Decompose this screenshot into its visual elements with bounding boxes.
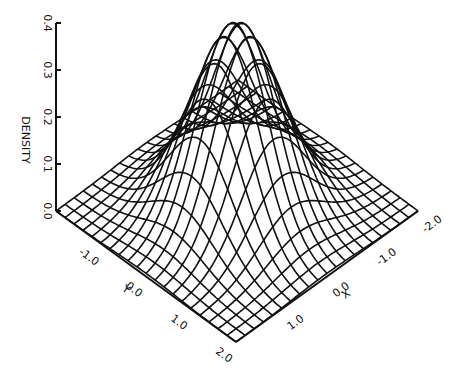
mesh-line-y (155, 37, 337, 280)
x-tick-label: -1.0 (374, 245, 399, 268)
mesh-line-y (128, 37, 310, 260)
x-axis-title: X (339, 286, 353, 301)
mesh-line-x (183, 85, 363, 249)
mesh-line-x (165, 37, 345, 260)
density-tick-label: 0.3 (41, 61, 54, 79)
wireframe-mesh (56, 23, 418, 342)
y-axis-edge (56, 211, 236, 342)
density-tick-label: 0.0 (41, 202, 54, 220)
mesh-line-x (74, 198, 254, 329)
mesh-line-x (193, 107, 373, 243)
mesh-line-y (218, 198, 400, 329)
y-tick-label: 2.0 (213, 345, 235, 366)
y-tick-label: -1.0 (77, 245, 102, 268)
x-axis-edge (236, 211, 418, 342)
x-tick-label: 1.0 (285, 312, 307, 333)
x-tick-label: -2.0 (419, 213, 444, 236)
mesh-line-y (146, 23, 328, 274)
mesh-line-x (92, 184, 272, 315)
mesh-line-x (202, 106, 382, 237)
mesh-line-x (111, 137, 291, 301)
mesh-line-y (200, 184, 382, 315)
density-tick-label: 0.1 (41, 155, 54, 173)
y-tick-label: 1.0 (168, 312, 190, 333)
mesh-line-y (227, 204, 409, 335)
density-tick-label: 0.4 (41, 14, 54, 32)
density-tick-label: 0.2 (41, 108, 54, 126)
density-surface-plot: 0.00.10.20.30.4DENSITY-1.00.01.02.0Y-2.0… (0, 0, 458, 379)
density-axis-title: DENSITY (19, 116, 32, 164)
